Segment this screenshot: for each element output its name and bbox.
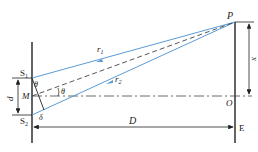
label-S2: S2 [20, 116, 28, 127]
label-r1: r1 [97, 44, 104, 55]
label-delta: δ [39, 113, 43, 122]
label-x: x [248, 57, 258, 62]
label-theta-top: θ [34, 80, 38, 89]
label-D: D [128, 115, 137, 126]
ray-r1 [32, 22, 235, 78]
theta-angle-arc [58, 88, 59, 96]
ray-r2 [32, 22, 235, 115]
label-d: d [5, 96, 15, 101]
label-theta-mid: θ [61, 87, 65, 96]
label-O: O [226, 98, 233, 108]
center-ray-MP [32, 22, 235, 96]
label-S1: S1 [20, 68, 28, 79]
label-M: M [21, 91, 30, 101]
label-P: P [226, 10, 233, 21]
label-r2: r2 [115, 74, 122, 85]
double-slit-diagram: P S1 S2 M d θ θ δ r1 r2 O E D x [0, 0, 258, 152]
label-E: E [239, 123, 245, 133]
